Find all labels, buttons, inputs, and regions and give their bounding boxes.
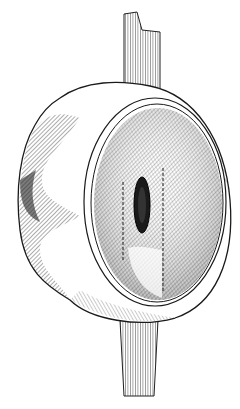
iris (94, 108, 222, 300)
optic-nerve-bottom (120, 320, 158, 396)
eye-illustration (0, 0, 240, 409)
optic-nerve-top (124, 12, 160, 92)
